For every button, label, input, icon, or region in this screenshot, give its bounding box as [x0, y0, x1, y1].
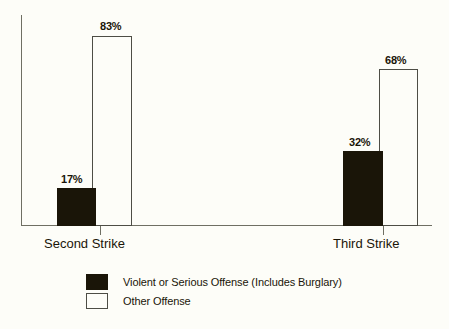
value-label-third-strike-violent: 32%: [349, 136, 370, 148]
x-axis-tick-second-strike: [100, 226, 101, 235]
value-label-second-strike-other: 83%: [100, 20, 121, 32]
y-axis-line: [21, 15, 22, 225]
bar-third-strike-other-offense: [379, 69, 418, 226]
value-label-third-strike-other: 68%: [385, 54, 406, 66]
category-label-third-strike: Third Strike: [333, 236, 399, 251]
bar-third-strike-violent-offense: [343, 151, 383, 226]
value-label-second-strike-violent: 17%: [61, 173, 82, 185]
bar-second-strike-other-offense: [92, 36, 132, 226]
bar-chart: 17% 83% 32% 68% Second Strike Third Stri…: [0, 0, 449, 329]
legend-item-violent-offense: Violent or Serious Offense (Includes Bur…: [86, 272, 342, 291]
x-axis-tick-third-strike: [383, 226, 384, 235]
legend-swatch-filled-square: [86, 274, 108, 290]
legend-label-other-offense: Other Offense: [123, 295, 191, 307]
legend-item-other-offense: Other Offense: [86, 291, 342, 310]
plot-area: 17% 83% 32% 68% Second Strike Third Stri…: [0, 0, 449, 260]
bar-second-strike-violent-offense: [57, 188, 96, 226]
legend-label-violent-offense: Violent or Serious Offense (Includes Bur…: [123, 276, 342, 288]
category-label-second-strike: Second Strike: [44, 236, 125, 251]
chart-legend: Violent or Serious Offense (Includes Bur…: [86, 272, 342, 310]
legend-swatch-outlined-square: [86, 293, 108, 309]
